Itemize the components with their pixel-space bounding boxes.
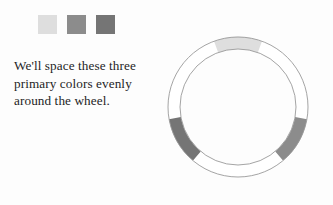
wheel-inner-fill xyxy=(180,49,296,165)
illustration-canvas: We'll space these three primary colors e… xyxy=(0,0,333,205)
color-wheel-svg xyxy=(0,0,333,205)
color-wheel-diagram xyxy=(0,0,333,205)
